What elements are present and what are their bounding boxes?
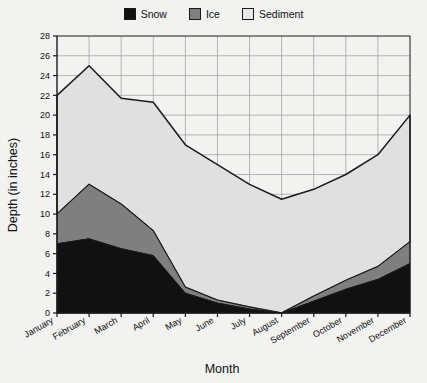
x-tick-label-july: July [229,315,248,332]
stacked-area-chart: Snow Ice Sediment 0246810121416182022242… [0,0,427,383]
y-axis-ticks: 0246810121416182022242628 [40,31,57,318]
y-tick-label: 22 [40,91,50,101]
x-tick-label-february: February [51,315,88,342]
y-tick-label: 2 [45,288,50,298]
x-tick-label-march: March [93,315,120,336]
y-axis-title: Depth (in inches) [6,138,20,233]
y-tick-label: 28 [40,31,50,41]
y-tick-label: 14 [40,170,50,180]
y-tick-label: 16 [40,150,50,160]
y-tick-label: 12 [40,189,50,199]
y-tick-label: 10 [40,209,50,219]
x-tick-label-june: June [194,315,216,333]
y-tick-label: 18 [40,130,50,140]
x-axis-ticks: JanuaryFebruaryMarchAprilMayJuneJulyAugu… [22,313,410,346]
x-tick-label-may: May [164,315,184,332]
plot-area: 0246810121416182022242628 JanuaryFebruar… [0,0,427,383]
y-tick-label: 20 [40,110,50,120]
x-tick-label-april: April [131,315,152,333]
y-tick-label: 4 [45,269,50,279]
y-tick-label: 24 [40,71,50,81]
series-areas [57,66,410,313]
y-tick-label: 26 [40,51,50,61]
y-tick-label: 6 [45,249,50,259]
y-tick-label: 8 [45,229,50,239]
x-tick-label-january: January [22,315,55,340]
x-axis-title: Month [205,362,240,376]
